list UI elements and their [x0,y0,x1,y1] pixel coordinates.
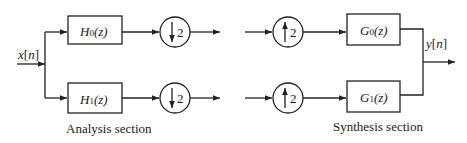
decimator-bottom-circle [160,83,190,113]
filter-g1-label: G1(z) [360,90,388,105]
decimator-top-circle [160,17,190,47]
expander-bottom-factor: 2 [290,91,297,106]
decimator-top-factor: 2 [177,25,184,40]
filter-h0-label: H0(z) [79,24,108,39]
filter-h1-label: H1(z) [79,92,108,107]
decimator-bottom-factor: 2 [177,91,184,106]
output-label: y[n] [424,36,447,51]
expander-bottom-circle [273,83,303,113]
filter-bank-diagram: x[n] H0(z) H1(z) 2 2 2 2 G0(z) G1(z) y[n… [0,0,467,143]
filter-g0-label: G0(z) [360,23,388,38]
summing-line [400,29,423,95]
expander-top-factor: 2 [290,25,297,40]
input-label: x[n] [17,47,39,62]
synthesis-caption: Synthesis section [333,119,423,134]
analysis-caption: Analysis section [66,121,152,136]
expander-top-circle [273,17,303,47]
diagram-svg: x[n] H0(z) H1(z) 2 2 2 2 G0(z) G1(z) y[n… [0,0,467,143]
